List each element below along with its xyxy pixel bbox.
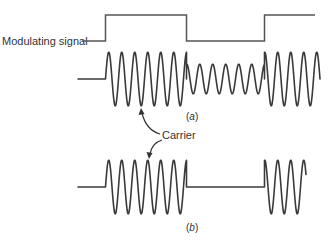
carrier-arrow-up (142, 113, 160, 134)
modulating-signal-waveform (82, 15, 315, 41)
carrier-arrow-down (150, 140, 162, 154)
panel-a-label: (a) (186, 111, 198, 122)
waveform-b-ook (78, 160, 306, 214)
modulation-diagram: Modulating signal (a) (b) Carrier (0, 0, 332, 244)
panel-b-label: (b) (186, 222, 198, 233)
carrier-arrowhead-up-icon (139, 108, 145, 115)
modulating-signal-label: Modulating signal (2, 35, 88, 47)
carrier-label: Carrier (162, 129, 196, 141)
carrier-arrowhead-down-icon (147, 152, 153, 159)
waveform-a-ask (78, 52, 320, 106)
